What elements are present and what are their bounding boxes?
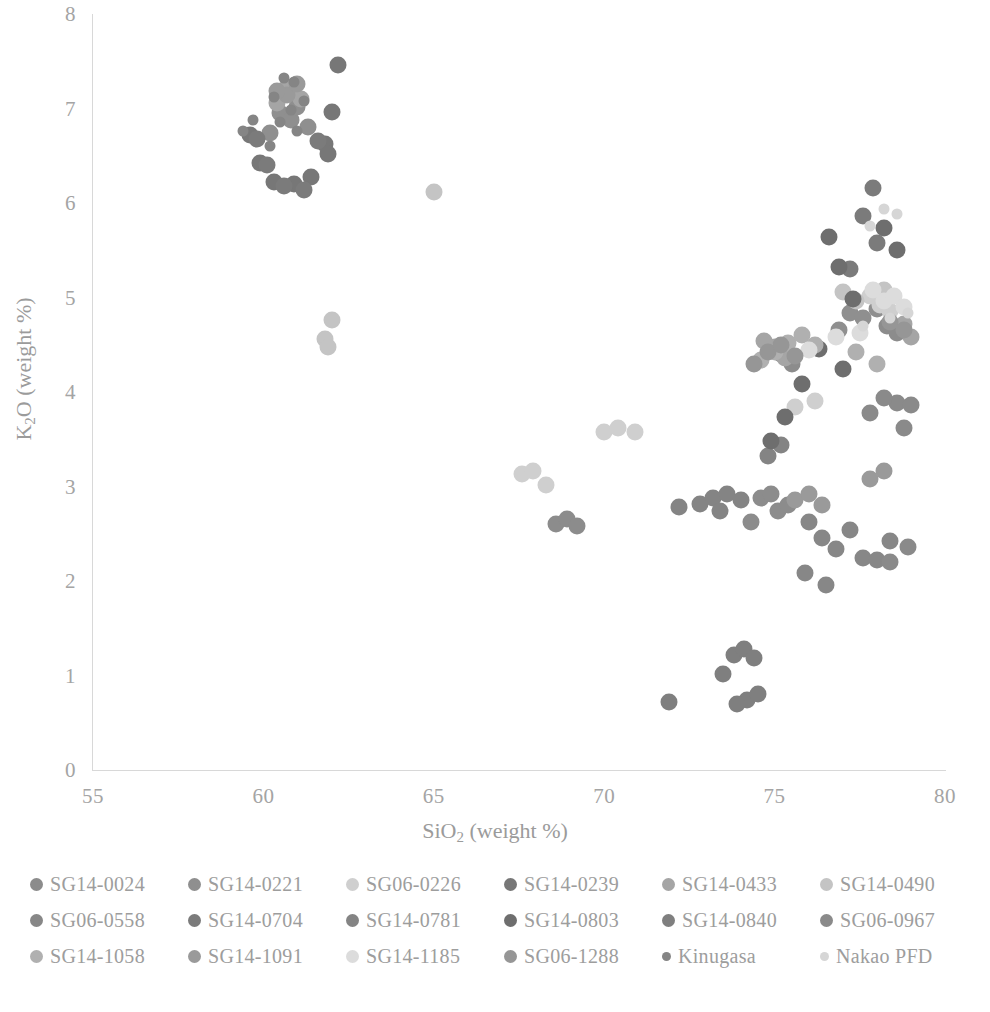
data-point — [538, 476, 555, 493]
data-point — [814, 497, 831, 514]
legend-marker-icon — [30, 950, 43, 963]
x-tick-75: 75 — [764, 784, 786, 809]
data-point — [248, 130, 265, 147]
y-tick-4: 4 — [65, 380, 76, 405]
legend-label: SG14-0433 — [682, 873, 777, 896]
legend-item-sg14-0024[interactable]: SG14-0024 — [30, 873, 188, 896]
y-tick-7: 7 — [65, 96, 76, 121]
data-point — [858, 320, 869, 331]
legend-label: SG14-0704 — [208, 909, 303, 932]
data-point — [763, 433, 780, 450]
legend-label: SG14-0221 — [208, 873, 303, 896]
legend-item-sg14-0840[interactable]: SG14-0840 — [662, 909, 820, 932]
legend-marker-icon — [346, 950, 359, 963]
data-point — [732, 491, 749, 508]
legend-label: SG14-0840 — [682, 909, 777, 932]
data-point — [299, 95, 310, 106]
data-point — [899, 538, 916, 555]
y-axis-tick-labels: 876543210 — [0, 0, 76, 1012]
data-point — [296, 181, 313, 198]
legend-marker-icon — [188, 878, 201, 891]
legend-item-sg06-0967[interactable]: SG06-0967 — [820, 909, 978, 932]
data-point — [320, 338, 337, 355]
legend-marker-icon — [504, 950, 517, 963]
data-point — [323, 312, 340, 329]
legend-item-sg14-0433[interactable]: SG14-0433 — [662, 873, 820, 896]
data-point — [729, 695, 746, 712]
legend-marker-icon — [346, 878, 359, 891]
legend-item-kinugasa[interactable]: Kinugasa — [662, 945, 820, 968]
legend-label: SG14-1091 — [208, 945, 303, 968]
data-point — [715, 665, 732, 682]
legend-row: SG14-0024SG14-0221SG06-0226SG14-0239SG14… — [0, 866, 990, 902]
data-point — [800, 514, 817, 531]
data-point — [746, 650, 763, 667]
data-point — [868, 355, 885, 372]
legend-item-sg14-0239[interactable]: SG14-0239 — [504, 873, 662, 896]
data-point — [524, 463, 541, 480]
legend-item-sg06-1288[interactable]: SG06-1288 — [504, 945, 662, 968]
data-point — [759, 448, 776, 465]
data-point — [742, 514, 759, 531]
y-tick-3: 3 — [65, 474, 76, 499]
legend-item-sg14-0781[interactable]: SG14-0781 — [346, 909, 504, 932]
data-point — [763, 486, 780, 503]
legend-label: Nakao PFD — [836, 945, 933, 968]
data-point — [817, 576, 834, 593]
legend-label: SG14-0781 — [366, 909, 461, 932]
data-point — [626, 423, 643, 440]
legend-item-sg14-1058[interactable]: SG14-1058 — [30, 945, 188, 968]
data-point — [323, 104, 340, 121]
legend-label: SG14-0024 — [50, 873, 145, 896]
data-point — [275, 116, 286, 127]
data-point — [776, 408, 793, 425]
data-point — [844, 291, 861, 308]
data-point — [712, 503, 729, 520]
x-tick-80: 80 — [934, 784, 956, 809]
data-point — [797, 565, 814, 582]
data-point — [268, 92, 279, 103]
legend-item-sg14-0490[interactable]: SG14-0490 — [820, 873, 978, 896]
data-point — [868, 234, 885, 251]
legend-item-nakao-pfd[interactable]: Nakao PFD — [820, 945, 978, 968]
data-point — [827, 329, 844, 346]
legend-item-sg14-0221[interactable]: SG14-0221 — [188, 873, 346, 896]
data-point — [889, 242, 906, 259]
data-point — [831, 259, 848, 276]
data-point — [885, 313, 896, 324]
legend-marker-icon — [346, 914, 359, 927]
x-tick-65: 65 — [423, 784, 445, 809]
legend-row: SG14-1058SG14-1091SG14-1185SG06-1288Kinu… — [0, 938, 990, 974]
legend-label: Kinugasa — [678, 945, 756, 968]
legend-item-sg14-0704[interactable]: SG14-0704 — [188, 909, 346, 932]
legend-label: SG06-0967 — [840, 909, 935, 932]
x-axis-title-text: SiO2 (weight %) — [422, 818, 568, 843]
y-axis-title: K2O (weight %) — [11, 259, 37, 479]
legend-item-sg14-1091[interactable]: SG14-1091 — [188, 945, 346, 968]
data-point — [875, 389, 892, 406]
legend-item-sg06-0226[interactable]: SG06-0226 — [346, 873, 504, 896]
data-point — [609, 419, 626, 436]
y-tick-5: 5 — [65, 285, 76, 310]
legend-marker-icon — [662, 952, 671, 961]
data-point — [425, 183, 442, 200]
legend-item-sg14-1185[interactable]: SG14-1185 — [346, 945, 504, 968]
x-axis-line — [92, 770, 946, 771]
data-point — [865, 220, 876, 231]
data-point — [807, 393, 824, 410]
legend-marker-icon — [662, 914, 675, 927]
legend-label: SG14-1185 — [366, 945, 460, 968]
x-tick-70: 70 — [593, 784, 615, 809]
data-point — [865, 281, 882, 298]
data-point — [660, 693, 677, 710]
data-point — [827, 540, 844, 557]
legend-item-sg14-0803[interactable]: SG14-0803 — [504, 909, 662, 932]
legend-item-sg06-0558[interactable]: SG06-0558 — [30, 909, 188, 932]
data-point — [865, 179, 882, 196]
legend-label: SG06-0558 — [50, 909, 145, 932]
data-point — [248, 114, 259, 125]
data-point — [821, 229, 838, 246]
data-point — [568, 518, 585, 535]
y-tick-6: 6 — [65, 191, 76, 216]
data-point — [292, 126, 303, 137]
